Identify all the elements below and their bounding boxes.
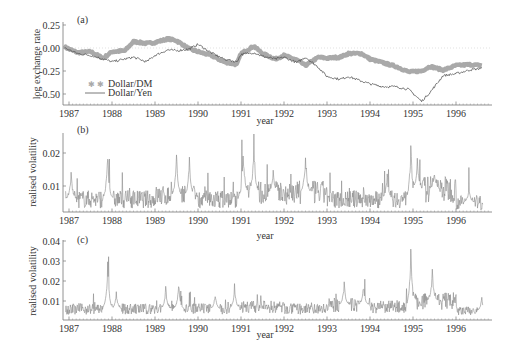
panel-a: 0.250.00-0.25-0.50 198719881989199019911… xyxy=(31,14,492,126)
x-tick-label: 1991 xyxy=(231,108,251,119)
y-tick-label: 0.01 xyxy=(43,296,61,307)
y-tick-label: 0.02 xyxy=(43,276,61,287)
panel-c-x-label: year xyxy=(256,329,274,340)
x-tick-label: 1996 xyxy=(446,215,466,226)
x-tick-label: 1988 xyxy=(102,108,122,119)
panel-c-y-label: realised volatility xyxy=(27,246,38,316)
legend: ✱ ✱ Dollar/DM Dollar/Yen xyxy=(85,78,153,98)
x-tick-label: 1994 xyxy=(360,215,380,226)
legend-dm-marker-icon: ✱ ✱ xyxy=(88,80,104,89)
x-tick-label: 1991 xyxy=(231,323,251,334)
y-tick-label: 0.04 xyxy=(43,236,61,247)
panel-b-volatility-series xyxy=(66,134,483,210)
x-tick-label: 1988 xyxy=(102,215,122,226)
figure: 0.250.00-0.25-0.50 198719881989199019911… xyxy=(0,0,513,354)
panel-b-label: (b) xyxy=(77,124,89,136)
x-tick-label: 1987 xyxy=(59,108,79,119)
panel-b-x-ticks: 1987198819891990199119921993199419951996 xyxy=(59,209,488,227)
panel-a-x-label: year xyxy=(256,115,274,126)
x-tick-label: 1987 xyxy=(59,323,79,334)
x-tick-label: 1990 xyxy=(188,323,208,334)
y-tick-label: 0.02 xyxy=(43,148,61,159)
x-tick-label: 1996 xyxy=(446,323,466,334)
panel-a-label: (a) xyxy=(77,14,88,26)
y-tick-label: -0.50 xyxy=(39,89,60,100)
x-tick-label: 1994 xyxy=(360,108,380,119)
x-tick-label: 1992 xyxy=(274,108,294,119)
dollar-dm-series xyxy=(65,38,482,72)
x-tick-label: 1991 xyxy=(231,215,251,226)
x-tick-label: 1992 xyxy=(274,215,294,226)
panel-a-y-label: log exchange rate xyxy=(31,28,42,99)
panel-b-x-label: year xyxy=(256,230,274,241)
panel-c-label: (c) xyxy=(77,234,88,246)
panel-c: 0.040.030.020.01 19871988198919901991199… xyxy=(27,234,492,340)
x-tick-label: 1995 xyxy=(403,215,423,226)
panel-a-x-ticks: 1987198819891990199119921993199419951996 xyxy=(59,102,488,120)
panel-a-y-ticks: 0.250.00-0.25-0.50 xyxy=(39,20,66,100)
panel-c-x-ticks: 1987198819891990199119921993199419951996 xyxy=(59,317,488,335)
x-tick-label: 1987 xyxy=(59,215,79,226)
x-tick-label: 1992 xyxy=(274,323,294,334)
legend-yen-label: Dollar/Yen xyxy=(108,87,152,98)
x-tick-label: 1995 xyxy=(403,323,423,334)
x-tick-label: 1990 xyxy=(188,215,208,226)
x-tick-label: 1990 xyxy=(188,108,208,119)
panel-b: 0.020.01 1987198819891990199119921993199… xyxy=(27,124,492,241)
x-tick-label: 1988 xyxy=(102,323,122,334)
x-tick-label: 1993 xyxy=(317,215,337,226)
panel-b-y-ticks: 0.020.01 xyxy=(43,148,67,192)
x-tick-label: 1994 xyxy=(360,323,380,334)
y-tick-label: 0.00 xyxy=(43,43,61,54)
x-tick-label: 1995 xyxy=(403,108,423,119)
svg-text:✱: ✱ xyxy=(88,80,95,89)
panel-b-y-label: realised volatility xyxy=(27,137,38,207)
x-tick-label: 1993 xyxy=(317,323,337,334)
x-tick-label: 1989 xyxy=(145,215,165,226)
panel-c-volatility-series xyxy=(66,249,483,315)
x-tick-label: 1989 xyxy=(145,323,165,334)
x-tick-label: 1993 xyxy=(317,108,337,119)
y-tick-label: -0.25 xyxy=(39,66,60,77)
y-tick-label: 0.01 xyxy=(43,181,61,192)
y-tick-label: 0.03 xyxy=(43,256,61,267)
x-tick-label: 1989 xyxy=(145,108,165,119)
x-tick-label: 1996 xyxy=(446,108,466,119)
svg-text:✱: ✱ xyxy=(97,80,104,89)
y-tick-label: 0.25 xyxy=(43,20,61,31)
panel-c-y-ticks: 0.040.030.020.01 xyxy=(43,236,67,307)
